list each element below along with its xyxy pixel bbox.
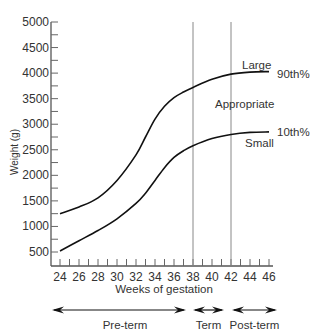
x-tick-label: 26 [72, 270, 86, 284]
x-tick-label: 36 [167, 270, 181, 284]
x-axis: 242628303234363840424446 [51, 259, 276, 284]
x-tick-label: 40 [205, 270, 219, 284]
y-tick-label: 2500 [22, 143, 49, 157]
period-label: Pre-term [103, 319, 148, 331]
x-tick-label: 42 [224, 270, 238, 284]
curve-90th-percentile [60, 72, 269, 214]
label-appropriate: Appropriate [215, 98, 274, 110]
period-label: Term [196, 319, 222, 331]
label-90th-percentile: 90th% [277, 68, 310, 80]
y-tick-label: 2000 [22, 168, 49, 182]
y-tick-label: 4500 [22, 41, 49, 55]
x-tick-label: 46 [262, 270, 276, 284]
x-tick-label: 44 [243, 270, 257, 284]
y-tick-label: 500 [29, 245, 49, 259]
x-tick-label: 32 [129, 270, 143, 284]
x-tick-label: 30 [110, 270, 124, 284]
y-axis: 500100015002000250030003500400045005000 [22, 15, 58, 266]
y-tick-label: 1000 [22, 219, 49, 233]
x-tick-label: 34 [148, 270, 162, 284]
label-small: Small [245, 137, 274, 149]
label-large: Large [242, 59, 271, 71]
x-axis-title: Weeks of gestation [115, 283, 213, 295]
x-tick-label: 38 [186, 270, 200, 284]
y-tick-label: 3500 [22, 92, 49, 106]
y-tick-label: 4000 [22, 66, 49, 80]
growth-chart: 500100015002000250030003500400045005000 … [0, 0, 320, 336]
curve-10th-percentile [60, 132, 269, 251]
y-axis-title: Weight (g) [9, 129, 20, 175]
y-tick-label: 1500 [22, 194, 49, 208]
y-tick-label: 5000 [22, 15, 49, 29]
gestation-periods: Pre-termTermPost-term [52, 307, 279, 332]
y-tick-label: 3000 [22, 117, 49, 131]
x-tick-label: 24 [53, 270, 67, 284]
label-10th-percentile: 10th% [277, 126, 310, 138]
period-label: Post-term [230, 319, 280, 331]
x-tick-label: 28 [91, 270, 105, 284]
